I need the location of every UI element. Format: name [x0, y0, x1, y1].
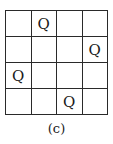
cell-r3-c4	[82, 63, 108, 89]
cell-r3-c1-queen: Q	[6, 63, 32, 89]
cell-r1-c2-queen: Q	[31, 11, 57, 37]
cell-r1-c3	[57, 11, 83, 37]
board-row-4: Q	[6, 89, 108, 115]
cell-r4-c3-queen: Q	[57, 89, 83, 115]
cell-r2-c1	[6, 37, 32, 63]
board-row-3: Q	[6, 63, 108, 89]
board-row-1: Q	[6, 11, 108, 37]
cell-r2-c2	[31, 37, 57, 63]
cell-r3-c2	[31, 63, 57, 89]
cell-r2-c3	[57, 37, 83, 63]
cell-r1-c1	[6, 11, 32, 37]
cell-r2-c4-queen: Q	[82, 37, 108, 63]
cell-r4-c4	[82, 89, 108, 115]
cell-r4-c1	[6, 89, 32, 115]
cell-r3-c3	[57, 63, 83, 89]
figure-caption: (c)	[0, 121, 113, 136]
cell-r1-c4	[82, 11, 108, 37]
board-row-2: Q	[6, 37, 108, 63]
four-queens-board: Q Q Q Q	[5, 10, 108, 115]
cell-r4-c2	[31, 89, 57, 115]
